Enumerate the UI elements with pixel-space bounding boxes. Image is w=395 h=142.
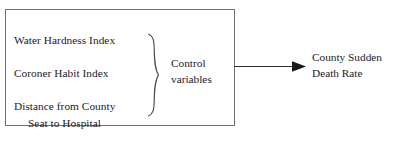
variable-list: Water Hardness Index Coroner Habit Index… (14, 15, 146, 142)
variable-label: Distance from County (14, 100, 115, 112)
control-variables-label-line1: Control (171, 56, 212, 72)
list-item: Coroner Habit Index (14, 48, 146, 81)
outcome-label-line2: Death Rate (312, 66, 382, 82)
control-variables-label: Control variables (171, 56, 212, 87)
outcome-label: County Sudden Death Rate (312, 50, 382, 81)
control-variables-label-line2: variables (171, 72, 212, 88)
causal-arrow-icon (234, 58, 310, 75)
list-item: Distance from County Seat to Hospital (14, 81, 146, 142)
curly-brace-icon (146, 33, 162, 117)
diagram-canvas: Water Hardness Index Coroner Habit Index… (0, 0, 395, 142)
list-item: Water Hardness Index (14, 15, 146, 48)
outcome-label-line1: County Sudden (312, 50, 382, 66)
variable-label: Coroner Habit Index (14, 67, 108, 79)
variable-label: Water Hardness Index (14, 34, 115, 46)
variable-label-continuation: Seat to Hospital (14, 115, 146, 132)
